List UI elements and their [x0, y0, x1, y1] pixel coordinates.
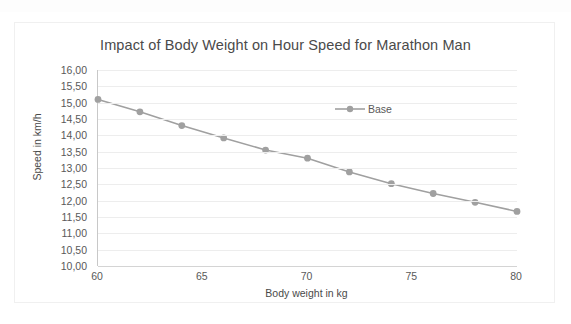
- x-axis-tick-labels: 6065707580: [97, 270, 516, 286]
- gridline-y: [98, 86, 517, 87]
- gridline-y: [98, 250, 517, 251]
- y-tick-label: 12,00: [61, 195, 87, 207]
- gridline-y: [98, 119, 517, 120]
- y-tick-label: 11,50: [62, 211, 88, 223]
- y-tick-label: 14,50: [61, 113, 87, 125]
- x-tick-label: 80: [510, 270, 522, 282]
- x-tick-label: 60: [91, 270, 103, 282]
- gridline-y: [98, 152, 517, 153]
- y-tick-label: 10,00: [61, 260, 87, 272]
- y-tick-label: 16,00: [61, 64, 87, 76]
- y-axis-tick-labels: 10,0010,5011,0011,5012,0012,5013,0013,50…: [15, 70, 93, 266]
- y-tick-label: 10,50: [61, 244, 87, 256]
- x-tick-label: 75: [405, 270, 417, 282]
- chart-legend[interactable]: Base: [335, 103, 392, 115]
- y-tick-label: 14,00: [61, 129, 87, 141]
- gridline-y: [98, 184, 517, 185]
- data-point-marker: [472, 199, 479, 206]
- data-point-marker: [95, 96, 102, 103]
- x-tick-label: 70: [301, 270, 313, 282]
- y-tick-label: 15,50: [61, 80, 87, 92]
- data-point-marker: [304, 155, 311, 162]
- y-tick-label: 12,50: [61, 178, 87, 190]
- y-tick-label: 13,00: [61, 162, 87, 174]
- plot-area: Base: [97, 70, 516, 266]
- legend-marker-icon: [335, 104, 365, 114]
- chart-container: Impact of Body Weight on Hour Speed for …: [14, 22, 555, 303]
- gridline-y: [98, 201, 517, 202]
- gridline-y: [98, 135, 517, 136]
- gridline-y: [98, 266, 517, 267]
- chart-title: Impact of Body Weight on Hour Speed for …: [15, 37, 556, 53]
- data-point-marker: [514, 208, 521, 215]
- legend-label-base: Base: [368, 103, 392, 115]
- data-point-marker: [178, 122, 185, 129]
- gridline-y: [98, 217, 517, 218]
- x-tick-label: 65: [196, 270, 208, 282]
- gridline-y: [98, 233, 517, 234]
- data-point-marker: [137, 108, 144, 115]
- gridline-y: [98, 168, 517, 169]
- y-tick-label: 15,00: [61, 97, 87, 109]
- gridline-y: [98, 103, 517, 104]
- data-point-marker: [346, 169, 353, 176]
- y-tick-label: 11,00: [62, 227, 88, 239]
- y-tick-label: 13,50: [61, 146, 87, 158]
- x-axis-title: Body weight in kg: [97, 287, 516, 299]
- scan-artifact-strip: [0, 0, 571, 12]
- data-point-marker: [430, 190, 437, 197]
- gridline-y: [98, 70, 517, 71]
